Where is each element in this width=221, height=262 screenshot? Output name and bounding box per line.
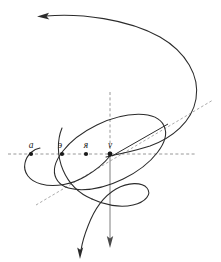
point-dot-v (108, 152, 113, 157)
point-label-v: v (108, 140, 113, 150)
point-dot-ya (84, 152, 88, 156)
point-label-e: э (58, 140, 62, 150)
point-label-ya: я (83, 140, 88, 150)
figure-container: a э я v (0, 0, 221, 262)
point-dot-e (60, 152, 64, 156)
spiral-diagram: a э я v (0, 0, 221, 262)
point-dot-a (29, 152, 33, 156)
outer-spiral-upper (46, 15, 197, 157)
point-label-a: a (29, 140, 34, 150)
ellipse-chord (112, 124, 168, 156)
lower-loop (81, 184, 149, 250)
down-arrow-curve-icon (77, 247, 83, 259)
